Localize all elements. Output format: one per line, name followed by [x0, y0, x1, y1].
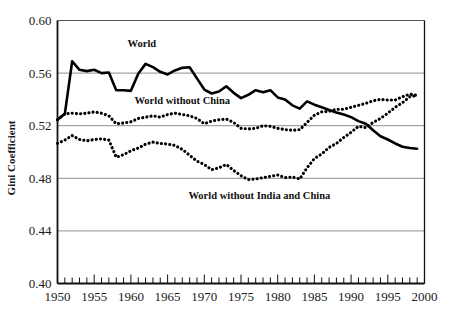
x-axis-tick-label: 1965 [155, 289, 181, 304]
x-axis-tick-label: 1960 [118, 289, 144, 304]
y-axis-tick-label: 0.60 [29, 13, 52, 28]
x-axis-tick-labels: 1950195519601965197019751980198519901995… [45, 289, 438, 304]
x-axis-tick-label: 1970 [191, 289, 217, 304]
x-axis-tick-label: 1985 [301, 289, 327, 304]
data-series-group [58, 61, 418, 179]
x-axis-tick-label: 1995 [375, 289, 401, 304]
series-line-2 [58, 95, 418, 179]
chart-canvas: 0.400.440.480.520.560.60 195019551960196… [0, 0, 449, 317]
x-axis-minor-ticks [58, 275, 425, 284]
x-axis-tick-label: 1950 [45, 289, 71, 304]
series-annotation-2: World without India and China [188, 190, 331, 201]
x-axis-tick-label: 1955 [81, 289, 107, 304]
y-axis-title-text: Gini Coefficient [5, 120, 17, 195]
y-axis-title: Gini Coefficient [5, 120, 17, 195]
series-line-1 [58, 94, 418, 130]
y-axis-tick-label: 0.44 [29, 223, 52, 238]
series-annotation-1: World without China [134, 95, 230, 106]
x-axis-tick-label: 1980 [265, 289, 291, 304]
y-axis-tick-label: 0.56 [29, 66, 52, 81]
y-axis-tick-label: 0.48 [29, 171, 52, 186]
x-axis-tick-label: 2000 [412, 289, 438, 304]
y-axis-tick-label: 0.52 [29, 118, 52, 133]
x-axis-tick-label: 1990 [338, 289, 364, 304]
y-axis-tick-labels: 0.400.440.480.520.560.60 [29, 13, 52, 291]
gini-coefficient-line-chart: 0.400.440.480.520.560.60 195019551960196… [0, 0, 449, 317]
x-axis-tick-label: 1975 [228, 289, 254, 304]
series-annotation-0: World [128, 38, 157, 49]
